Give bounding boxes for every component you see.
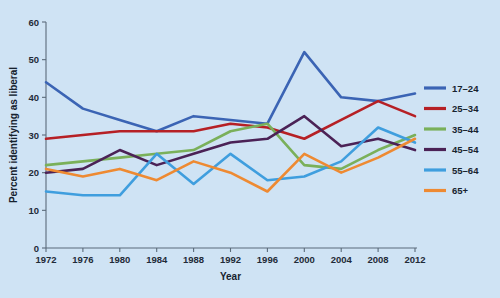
x-tick-label: 1980 bbox=[109, 254, 130, 265]
legend-label-0: 17–24 bbox=[452, 83, 479, 94]
series-line-55-64 bbox=[46, 127, 415, 195]
x-tick-label: 1976 bbox=[72, 254, 93, 265]
legend-label-1: 25–34 bbox=[452, 103, 479, 114]
y-tick-label: 40 bbox=[28, 92, 39, 103]
legend-label-3: 45–54 bbox=[452, 144, 479, 155]
series-line-35-44 bbox=[46, 124, 415, 169]
y-tick-label: 50 bbox=[28, 54, 39, 65]
x-tick-label: 1988 bbox=[183, 254, 204, 265]
y-tick-label: 10 bbox=[28, 205, 39, 216]
x-tick-label: 1996 bbox=[257, 254, 278, 265]
x-tick-label: 2012 bbox=[404, 254, 425, 265]
x-tick-label: 1992 bbox=[220, 254, 241, 265]
series-lines bbox=[46, 52, 415, 195]
y-tick-label: 20 bbox=[28, 167, 39, 178]
legend-label-2: 35–44 bbox=[452, 124, 479, 135]
legend: 17–2425–3435–4445–5455–6465+ bbox=[424, 83, 479, 197]
y-tick-label: 30 bbox=[28, 130, 39, 141]
series-line-17-24 bbox=[46, 52, 415, 131]
y-axis-title: Percent identifying as liberal bbox=[8, 67, 19, 203]
x-tick-label: 2004 bbox=[331, 254, 353, 265]
y-tick-label: 60 bbox=[28, 17, 39, 28]
legend-label-4: 55–64 bbox=[452, 165, 479, 176]
series-line-65+ bbox=[46, 139, 415, 192]
x-tick-label: 1984 bbox=[146, 254, 168, 265]
x-tick-label: 2000 bbox=[294, 254, 315, 265]
x-tick-label: 2008 bbox=[368, 254, 389, 265]
line-chart: 0102030405060197219761980198419881992199… bbox=[0, 0, 500, 298]
chart-container: 0102030405060197219761980198419881992199… bbox=[0, 0, 500, 298]
x-axis-title: Year bbox=[220, 271, 241, 282]
legend-label-5: 65+ bbox=[452, 185, 469, 196]
y-tick-label: 0 bbox=[34, 243, 39, 254]
x-tick-label: 1972 bbox=[35, 254, 56, 265]
